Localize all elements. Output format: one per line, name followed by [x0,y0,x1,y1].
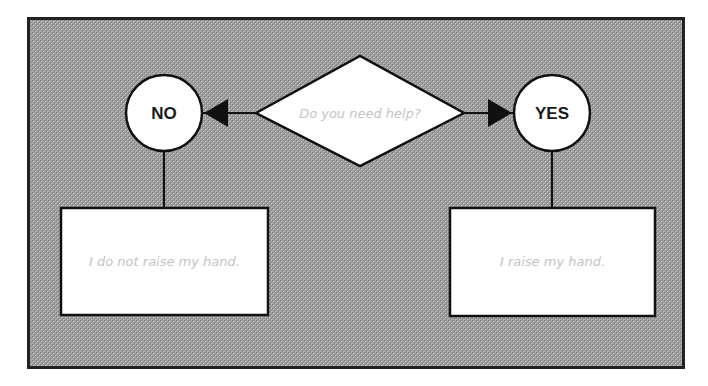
branch-yes-node: YES [514,75,590,151]
no-outcome-label: I do not raise my hand. [89,254,240,269]
branch-no-node: NO [126,75,202,151]
yes-outcome-label: I raise my hand. [500,254,605,269]
yes-outcome-node: I raise my hand. [450,208,655,316]
no-outcome-node: I do not raise my hand. [61,208,268,315]
yes-label: YES [535,104,569,123]
no-label: NO [151,104,177,123]
flowchart-canvas: Do you need help? NO YES I do not raise … [0,0,708,386]
decision-label: Do you need help? [299,106,421,121]
